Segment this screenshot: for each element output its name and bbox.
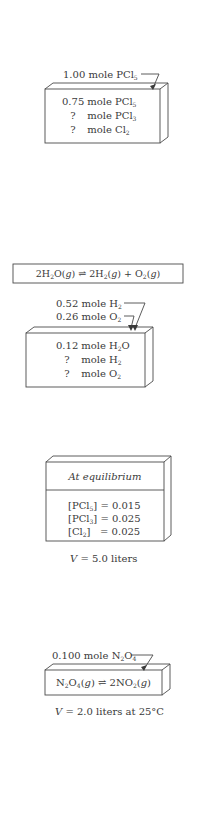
equilibrium-row-1: [PCl5] = 0.015 <box>68 500 141 511</box>
equation-2: 2H2O(g) ⇌ 2H2(g) + O2(g) <box>13 268 183 279</box>
box-1-row-3: ? mole Cl2 <box>62 124 130 138</box>
box-2-row-3: ? mole O2 <box>56 368 121 382</box>
equilibrium-header: At equilibrium <box>46 471 164 482</box>
arrow-1-line <box>141 74 159 88</box>
volume-caption-4: V = 2.0 liters at 25°C <box>55 706 164 717</box>
equilibrium-arrow-icon: ⇌ <box>98 677 106 688</box>
equilibrium-arrow-icon: ⇌ <box>78 268 86 279</box>
box-1-row-2: ? mole PCl3 <box>62 110 136 124</box>
arrow-2a-line <box>124 303 145 328</box>
box-1-row-1: 0.75 mole PCl5 <box>62 96 136 110</box>
arrow-2b-head <box>128 325 134 331</box>
arrow-2b-label: 0.26 mole O2 <box>56 311 121 322</box>
arrow-2a-label: 0.52 mole H2 <box>56 298 122 309</box>
equation-4: N2O4(g) ⇌ 2NO2(g) <box>45 677 162 688</box>
arrow-1-label: 1.00 mole PCl5 <box>63 69 138 80</box>
equilibrium-row-2: [PCl3] = 0.025 <box>68 513 141 524</box>
box-2-row-2: ? mole H2 <box>56 354 122 368</box>
volume-caption-3: V = 5.0 liters <box>70 553 137 564</box>
equilibrium-row-3: [Cl2] = 0.025 <box>68 526 140 537</box>
box-2-row-1: 0.12 mole H2O <box>56 340 130 354</box>
arrow-4-label: 0.100 mole N2O4 <box>52 650 136 661</box>
